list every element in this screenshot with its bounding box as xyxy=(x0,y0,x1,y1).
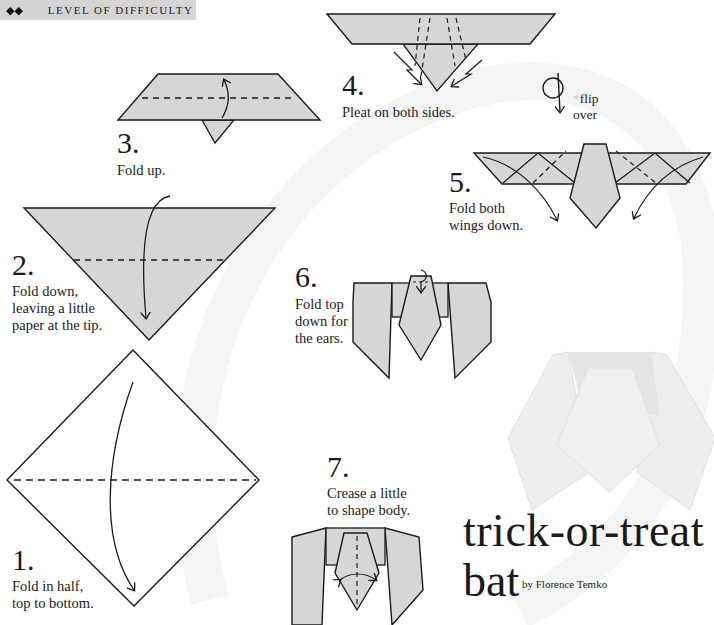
step-7-diagram xyxy=(292,528,423,625)
step-7-line: Crease a little xyxy=(327,485,410,502)
step-6-line: the ears. xyxy=(295,330,348,347)
step-5-line: wings down. xyxy=(449,217,523,234)
step-6-text: Fold top down for the ears. xyxy=(295,296,348,347)
difficulty-filled-diamonds-icon: ◆◆ xyxy=(6,4,23,16)
step-1-text: Fold in half, top to bottom. xyxy=(12,578,94,612)
step-3-number: 3. xyxy=(117,128,140,158)
step-3-text: Fold up. xyxy=(117,162,165,179)
step-3-diagram xyxy=(118,74,320,143)
step-1-number: 1. xyxy=(12,545,35,575)
step-4-number: 4. xyxy=(342,70,365,100)
page-title: trick-or-treat xyxy=(463,508,704,554)
step-3-line: Fold up. xyxy=(117,162,165,179)
step-1-line: top to bottom. xyxy=(12,595,94,612)
step-4-line: Pleat on both sides. xyxy=(342,104,455,121)
difficulty-label: LEVEL OF DIFFICULTY xyxy=(48,4,194,16)
difficulty-badge: ◆◆◇◇ LEVEL OF DIFFICULTY xyxy=(0,0,196,20)
step-7-text: Crease a little to shape body. xyxy=(327,485,410,519)
flip-over-note: *flip over xyxy=(573,91,599,122)
step-5-number: 5. xyxy=(449,167,472,197)
step-7-number: 7. xyxy=(327,452,350,482)
step-2-line: paper at the tip. xyxy=(12,317,102,334)
flip-note-line: flip xyxy=(580,91,599,106)
step-2-line: Fold down, xyxy=(12,283,102,300)
page-title-line-2: bat xyxy=(463,558,519,604)
step-7-line: to shape body. xyxy=(327,502,410,519)
step-6-line: Fold top xyxy=(295,296,348,313)
step-6-diagram xyxy=(353,270,491,378)
step-2-text: Fold down, leaving a little paper at the… xyxy=(12,283,102,334)
step-2-line: leaving a little xyxy=(12,300,102,317)
step-5-line: Fold both xyxy=(449,200,523,217)
step-4-text: Pleat on both sides. xyxy=(342,104,455,121)
difficulty-rating: ◆◆◇◇ xyxy=(6,4,40,17)
step-1-line: Fold in half, xyxy=(12,578,94,595)
difficulty-empty-diamonds-icon: ◇◇ xyxy=(23,4,40,16)
step-2-number: 2. xyxy=(12,250,35,280)
step-5-text: Fold both wings down. xyxy=(449,200,523,234)
author-byline: by Florence Temko xyxy=(522,578,607,590)
asterisk-icon: * xyxy=(573,91,580,106)
flip-note-line: over xyxy=(573,107,599,123)
step-6-number: 6. xyxy=(295,262,318,292)
step-6-line: down for xyxy=(295,313,348,330)
